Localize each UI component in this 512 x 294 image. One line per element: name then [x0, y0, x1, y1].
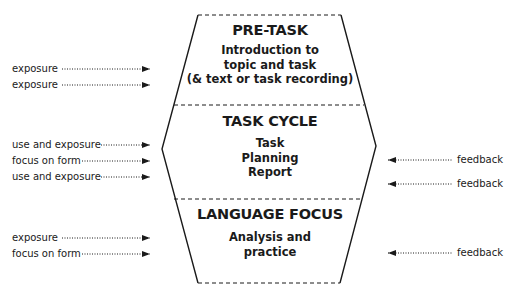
section-title-task-cycle: TASK CYCLE	[170, 113, 370, 129]
output-arrows	[388, 157, 453, 256]
section-line: Analysis and	[170, 230, 370, 245]
arrowhead-right-icon	[142, 235, 150, 241]
arrowhead-right-icon	[142, 142, 150, 148]
arrowhead-left-icon	[388, 181, 396, 187]
section-line: (& text or task recording)	[170, 72, 370, 87]
input-label: exposure	[12, 63, 58, 75]
arrowhead-right-icon	[142, 251, 150, 257]
input-label: use and exposure	[12, 171, 101, 183]
section-title-pre-task: PRE-TASK	[170, 22, 370, 38]
section-line: Introduction to	[170, 43, 370, 58]
section-body-pre-task: Introduction to topic and task (& text o…	[170, 43, 370, 87]
section-line: topic and task	[170, 58, 370, 73]
arrowhead-right-icon	[142, 82, 150, 88]
arrowhead-right-icon	[142, 66, 150, 72]
section-line: Planning	[170, 151, 370, 166]
section-body-language-focus: Analysis and practice	[170, 230, 370, 259]
input-label: focus on form	[12, 248, 81, 260]
input-label: exposure	[12, 79, 58, 91]
output-label: feedback	[457, 154, 503, 166]
section-line: Report	[170, 165, 370, 180]
input-label: exposure	[12, 232, 58, 244]
output-label: feedback	[457, 178, 503, 190]
section-title-language-focus: LANGUAGE FOCUS	[170, 206, 370, 222]
section-line: practice	[170, 245, 370, 260]
arrowhead-right-icon	[142, 158, 150, 164]
arrowhead-right-icon	[142, 174, 150, 180]
input-label: focus on form	[12, 155, 81, 167]
input-label: use and exposure	[12, 139, 101, 151]
section-line: Task	[170, 136, 370, 151]
arrowhead-left-icon	[388, 250, 396, 256]
arrowhead-left-icon	[388, 157, 396, 163]
section-body-task-cycle: Task Planning Report	[170, 136, 370, 180]
output-label: feedback	[457, 247, 503, 259]
